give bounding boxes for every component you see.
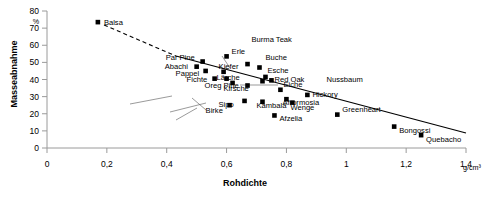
x-tick-label: 0,8 [281, 159, 293, 169]
data-point-marker [305, 93, 310, 98]
data-point-label: Kiefer [219, 62, 239, 71]
y-axis-title: Masseabnahme [9, 40, 19, 107]
y-tick-label: 30 [30, 92, 40, 102]
x-tick-label: 1 [344, 159, 349, 169]
data-point-label: Par Pine [166, 53, 195, 62]
data-point-label: Birke [206, 106, 223, 115]
data-point-label: Eiche [283, 80, 302, 89]
y-tick-label: 60 [30, 40, 40, 50]
data-point-marker [242, 99, 247, 104]
x-axis: 00,20,40,60,811,21,4 [45, 148, 473, 169]
data-point-marker [263, 75, 268, 80]
data-point-label: Kambala [256, 101, 287, 110]
data-point-label: Buche [265, 53, 287, 62]
data-point-label: Kirsche [224, 84, 249, 93]
x-axis-title: Rohdichte [223, 178, 267, 188]
data-point-label: Quebacho [426, 135, 461, 144]
data-point: Erle [224, 47, 245, 58]
x-axis-title-wrap: Rohdichte [0, 172, 490, 190]
y-axis: 01020304050607080 [30, 6, 47, 153]
data-point: Greenheart [335, 105, 382, 117]
x-tick-label: 0,4 [161, 159, 173, 169]
data-point-marker [278, 87, 283, 92]
data-point-marker [260, 79, 265, 84]
y-tick-label: 0 [34, 143, 39, 153]
y-tick-label: 10 [30, 126, 40, 136]
data-point-label: Greenheart [342, 105, 381, 114]
data-point-label: Afzelia [279, 114, 303, 123]
data-point-label: Bongossi [399, 126, 431, 135]
data-point-marker [392, 124, 397, 129]
data-point-marker [227, 103, 232, 108]
data-point-marker [269, 78, 274, 83]
data-point-marker [335, 112, 340, 117]
data-point-label: Balsa [104, 18, 124, 27]
data-point-label: Erle [232, 47, 246, 56]
y-tick-label: 20 [30, 109, 40, 119]
x-axis-ticks [47, 148, 466, 153]
y-tick-label: 40 [30, 75, 40, 85]
data-point-marker [200, 59, 205, 64]
x-tick-label: 0,2 [101, 159, 113, 169]
y-axis-ticks [42, 11, 47, 148]
y-tick-label: 80 [30, 6, 40, 16]
data-point-label: Wenge [290, 103, 314, 112]
data-point: Quebacho [419, 133, 461, 144]
data-point-marker [419, 133, 424, 138]
data-points-layer: BalsaPar PineErleAbachiPappelKieferBurma… [96, 18, 462, 144]
y-tick-label: 50 [30, 57, 40, 67]
data-point: Kambala [256, 99, 287, 109]
scatter-chart: 01020304050607080 00,20,40,60,811,21,4 B… [0, 0, 490, 208]
x-axis-tick-labels: 00,20,40,60,811,21,4 [45, 159, 473, 169]
data-point-marker [203, 69, 208, 74]
data-point: Kirsche [224, 83, 250, 93]
data-point: Balsa [96, 18, 124, 27]
data-point: Burma Teak [245, 35, 292, 66]
x-axis-unit: g/cm³ [463, 163, 482, 172]
data-point-label: Nussbaum [326, 75, 362, 84]
x-tick-label: 1,2 [400, 159, 412, 169]
x-tick-label: 0,6 [221, 159, 233, 169]
data-point: Wenge [290, 100, 314, 111]
data-point-marker [272, 113, 277, 118]
data-point: Afzelia [272, 113, 303, 123]
y-axis-tick-labels: 01020304050607080 [30, 6, 40, 153]
data-point-label: Esche [267, 66, 288, 75]
y-axis-unit: % [33, 17, 40, 26]
data-point-marker [224, 54, 229, 59]
x-tick-label: 0 [45, 159, 50, 169]
data-point: Bongossi [392, 124, 431, 134]
data-point-marker [96, 20, 101, 25]
data-point-marker [245, 62, 250, 67]
data-point-label: Burma Teak [252, 35, 293, 44]
y-axis-title-wrap: Masseabnahme [3, 0, 25, 148]
data-point-marker [257, 65, 262, 70]
